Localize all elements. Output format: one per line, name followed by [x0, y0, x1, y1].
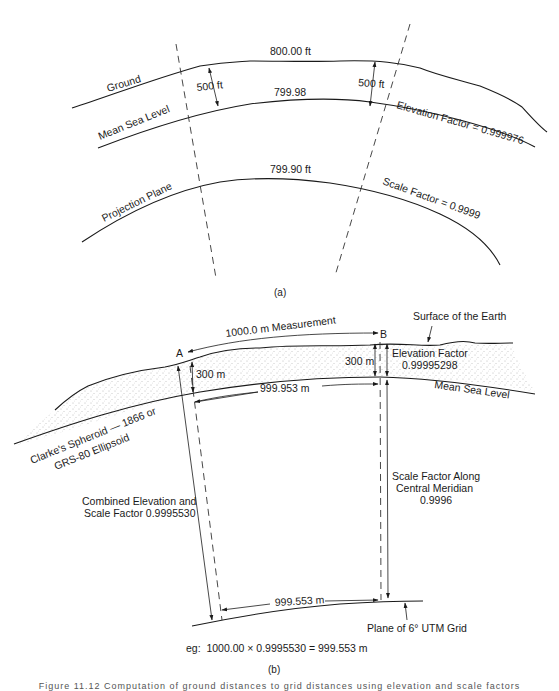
figure-b: A B 1000.0 m Measurement Surface of the …: [14, 310, 535, 675]
grid-distance-arrow-left: [222, 604, 270, 610]
figure-a: Ground Mean Sea Level Projection Plane 8…: [72, 24, 547, 298]
geodesy-diagram: Ground Mean Sea Level Projection Plane 8…: [0, 0, 559, 691]
ground-distance-value: 800.00 ft: [270, 45, 311, 57]
msl-distance-label: 999.953 m: [260, 382, 310, 394]
b-dashed-line: [380, 342, 381, 600]
scale-along-line3: 0.9996: [420, 494, 452, 506]
measurement-label: 1000.0 m Measurement: [225, 314, 337, 339]
height-left-value: 500 ft: [196, 78, 223, 93]
height-a-label: 300 m: [196, 368, 225, 380]
projection-distance-value: 799.90 ft: [270, 163, 311, 175]
grid-distance-arrow-right: [325, 600, 378, 601]
point-b-label: B: [380, 328, 387, 340]
msl-label: Mean Sea Level: [96, 102, 171, 142]
msl-distance-value: 799.98: [274, 86, 306, 98]
example-equation: eg: 1000.00 × 0.9995530 = 999.553 m: [186, 642, 368, 654]
grid-plane-label: Plane of 6° UTM Grid: [367, 622, 467, 634]
figure-a-label: (a): [274, 287, 286, 298]
radial-dashed-right: [335, 24, 410, 276]
figure-caption: Figure 11.12 Computation of ground dista…: [0, 681, 559, 691]
elevation-factor-title: Elevation Factor: [392, 347, 468, 359]
msl-distance-arrow-left: [195, 392, 258, 402]
grid-plane-pointer-arrow: [405, 603, 407, 620]
point-a-label: A: [176, 347, 183, 359]
scale-along-line1: Scale Factor Along: [392, 470, 480, 482]
height-right-value: 500 ft: [358, 76, 385, 90]
b-solid-line: [387, 380, 388, 598]
height-b-label: 300 m: [345, 355, 374, 367]
projection-plane-label: Projection Plane: [100, 179, 174, 223]
figure-b-label: (b): [268, 664, 280, 675]
surface-pointer-arrow: [428, 326, 432, 342]
elevation-factor-value: 0.99995298: [402, 359, 458, 371]
combined-factor-line1: Combined Elevation and: [82, 495, 197, 507]
scale-along-line2: Central Meridian: [396, 482, 473, 494]
combined-factor-line2: Scale Factor 0.9995530: [84, 507, 196, 519]
elevation-factor-label: Elevation Factor = 0.999976: [395, 98, 525, 146]
surface-of-earth-label: Surface of the Earth: [413, 310, 507, 322]
